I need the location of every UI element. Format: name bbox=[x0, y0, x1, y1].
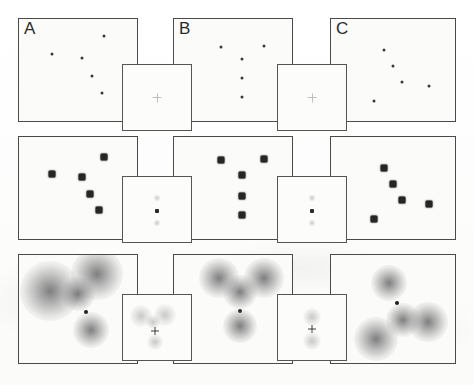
panel-c-row2 bbox=[330, 136, 456, 240]
data-point bbox=[303, 332, 321, 350]
data-point bbox=[371, 215, 378, 222]
panel-a-row1: A bbox=[18, 18, 138, 122]
data-point bbox=[218, 157, 225, 164]
data-point bbox=[392, 64, 395, 67]
data-point bbox=[309, 219, 316, 226]
inset-panel-row3-left bbox=[122, 294, 192, 361]
figure-root: A B C bbox=[0, 0, 474, 385]
data-point bbox=[241, 95, 244, 98]
inset-panel-row2-left bbox=[122, 176, 192, 243]
data-point bbox=[80, 56, 83, 59]
data-point bbox=[73, 312, 109, 348]
data-point bbox=[223, 309, 257, 343]
panel-c-row1: C bbox=[330, 18, 456, 122]
panel-a-row2 bbox=[18, 136, 138, 240]
data-point bbox=[86, 191, 93, 198]
center-cross-icon bbox=[308, 93, 317, 102]
data-point bbox=[262, 44, 265, 47]
panel-label-c: C bbox=[336, 20, 349, 38]
data-point bbox=[100, 154, 107, 161]
data-point bbox=[223, 275, 257, 309]
data-point bbox=[427, 85, 430, 88]
panel-label-a: A bbox=[24, 20, 36, 38]
data-point bbox=[155, 209, 159, 213]
data-point bbox=[49, 170, 56, 177]
data-point bbox=[239, 193, 246, 200]
data-point bbox=[102, 35, 105, 38]
panel-a-row3 bbox=[18, 254, 138, 364]
data-point bbox=[390, 180, 397, 187]
data-point bbox=[398, 197, 405, 204]
inset-panel-row3-right bbox=[277, 294, 347, 361]
data-point bbox=[408, 302, 448, 342]
data-point bbox=[241, 57, 244, 60]
panel-c-row3 bbox=[330, 254, 456, 364]
data-point bbox=[354, 317, 398, 361]
data-point bbox=[154, 195, 161, 202]
data-point bbox=[309, 195, 316, 202]
inset-panel-row2-right bbox=[277, 176, 347, 243]
data-point bbox=[371, 265, 407, 301]
data-point bbox=[51, 52, 54, 55]
data-point bbox=[303, 308, 321, 326]
center-cross-icon bbox=[153, 93, 162, 102]
data-point bbox=[78, 173, 85, 180]
data-point bbox=[383, 48, 386, 51]
data-point bbox=[373, 99, 376, 102]
panel-label-b: B bbox=[179, 20, 191, 38]
data-point bbox=[400, 81, 403, 84]
data-point bbox=[154, 219, 161, 226]
data-point bbox=[91, 75, 94, 78]
data-point bbox=[220, 45, 223, 48]
data-point bbox=[100, 92, 103, 95]
data-point bbox=[96, 207, 103, 214]
data-point bbox=[239, 211, 246, 218]
data-point bbox=[310, 209, 314, 213]
inset-panel-row1-left bbox=[122, 64, 192, 131]
data-point bbox=[241, 77, 244, 80]
inset-panel-row1-right bbox=[277, 64, 347, 131]
data-point bbox=[425, 201, 432, 208]
data-point bbox=[61, 277, 95, 311]
data-point bbox=[147, 334, 163, 350]
data-point bbox=[381, 164, 388, 171]
data-point bbox=[239, 171, 246, 178]
data-point bbox=[146, 315, 160, 329]
data-point bbox=[260, 156, 267, 163]
